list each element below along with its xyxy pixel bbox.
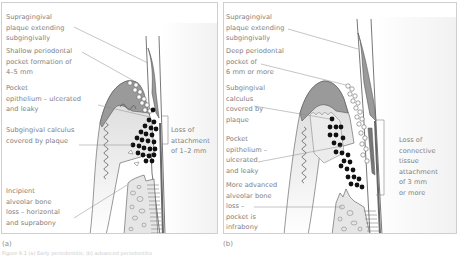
- label-bone-loss: More advanced alveolar bone loss – pocke…: [226, 180, 277, 233]
- label-loss-of-connective-attachment: Loss of connective tissue attachment of …: [399, 135, 438, 199]
- label-loss-of-attachment: Loss of attachment of 1–2 mm: [171, 125, 210, 157]
- figure-caption: Figure 9.1 (a) Early periodontitis; (b) …: [2, 250, 152, 256]
- label-deep-pocket: Deep periodontal pocket of 6 mm or more: [226, 46, 284, 78]
- panel-letter-b: (b): [223, 240, 233, 248]
- label-pocket-epithelium: Pocket epithelium – ulcerated and leaky: [6, 83, 81, 115]
- panel-advanced-periodontitis: Supragingival plaque extending subgingiv…: [223, 2, 457, 234]
- panel-letter-a: (a): [2, 240, 12, 248]
- label-subgingival-calculus: Subgingival calculus covered by plaque: [6, 125, 74, 146]
- panel-early-periodontitis: Supragingival plaque extending subgingiv…: [1, 2, 218, 234]
- label-pocket-epithelium: Pocket epithelium – ulcerated and leaky: [226, 134, 267, 176]
- label-shallow-pocket: Shallow periodontal pocket formation of …: [6, 46, 72, 78]
- label-bone-loss: Incipient alveolar bone loss – horizonta…: [6, 186, 60, 228]
- label-subgingival-calculus: Subgingival calculus covered by plaque: [226, 83, 265, 125]
- label-supragingival-plaque: Supragingival plaque extending subgingiv…: [226, 12, 284, 44]
- label-supragingival-plaque: Supragingival plaque extending subgingiv…: [6, 12, 64, 44]
